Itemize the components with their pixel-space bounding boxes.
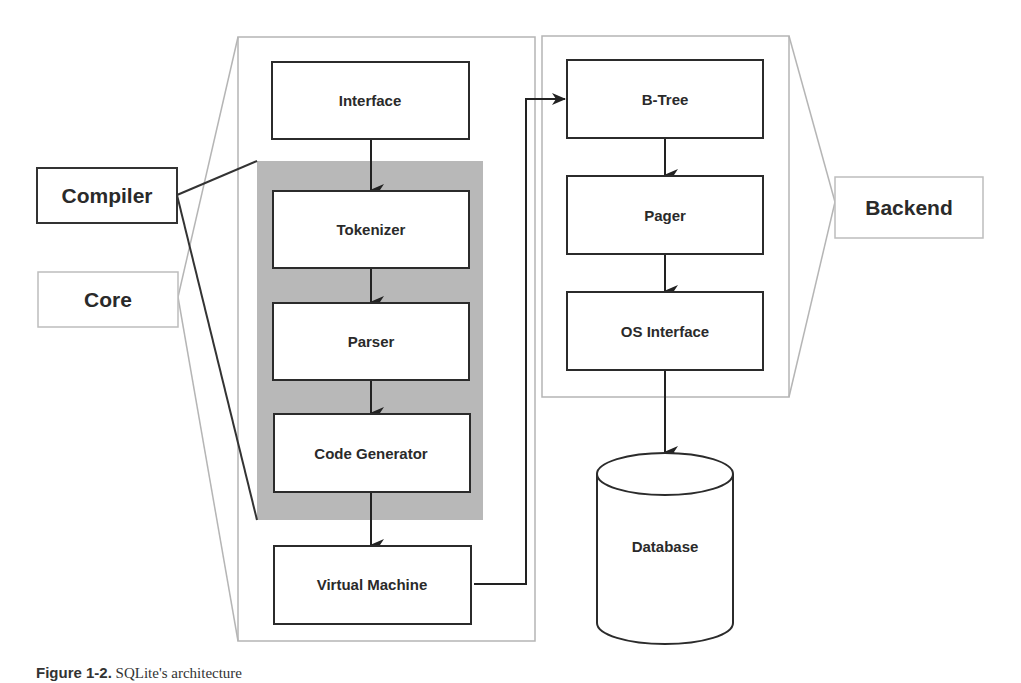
backend-label: Backend (865, 196, 953, 219)
figure-caption-text: SQLite's architecture (116, 665, 242, 681)
compiler-connector-lines (177, 161, 257, 520)
database-label: Database (632, 538, 699, 555)
core-label: Core (84, 288, 132, 311)
compiler-label: Compiler (61, 184, 152, 207)
module-btree[interactable]: B-Tree (567, 60, 763, 138)
module-virtual-machine[interactable]: Virtual Machine (274, 546, 471, 624)
vm-to-btree-arrow (474, 99, 565, 584)
module-pager[interactable]: Pager (567, 176, 763, 254)
core-label-box[interactable]: Core (38, 272, 178, 327)
module-code-generator[interactable]: Code Generator (274, 414, 470, 492)
backend-connector-lines (789, 36, 835, 397)
module-parser[interactable]: Parser (273, 303, 469, 380)
module-parser-label: Parser (348, 333, 395, 350)
module-pager-label: Pager (644, 207, 686, 224)
figure-caption: Figure 1-2. SQLite's architecture (36, 664, 242, 682)
module-virtual-machine-label: Virtual Machine (317, 576, 428, 593)
figure-number: Figure 1-2. (36, 664, 112, 681)
database-cylinder-icon[interactable]: Database (597, 453, 733, 644)
module-os-interface-label: OS Interface (621, 323, 709, 340)
module-os-interface[interactable]: OS Interface (567, 292, 763, 370)
backend-label-box[interactable]: Backend (835, 177, 983, 238)
module-interface[interactable]: Interface (272, 62, 469, 139)
module-interface-label: Interface (339, 92, 402, 109)
module-btree-label: B-Tree (642, 91, 689, 108)
module-code-generator-label: Code Generator (314, 445, 428, 462)
module-tokenizer-label: Tokenizer (337, 221, 406, 238)
core-connector-lines (178, 37, 238, 641)
compiler-label-box[interactable]: Compiler (37, 168, 177, 223)
module-tokenizer[interactable]: Tokenizer (273, 191, 469, 268)
